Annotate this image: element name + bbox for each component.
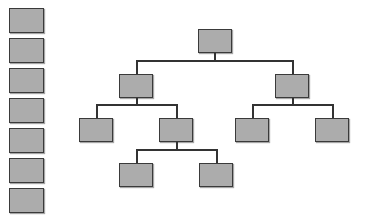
node-l3-a bbox=[119, 163, 153, 187]
node-l2-c bbox=[235, 118, 269, 142]
connector bbox=[252, 104, 254, 118]
connector bbox=[136, 149, 217, 151]
legend-box-1 bbox=[9, 8, 44, 33]
legend-box-4 bbox=[9, 98, 44, 123]
connector bbox=[136, 149, 138, 163]
legend-box-5 bbox=[9, 128, 44, 153]
node-l1-right bbox=[275, 74, 309, 98]
connector bbox=[136, 60, 293, 62]
connector bbox=[136, 60, 138, 74]
node-root bbox=[198, 29, 232, 53]
legend-box-3 bbox=[9, 68, 44, 93]
node-l2-a bbox=[79, 118, 113, 142]
connector bbox=[176, 104, 178, 118]
legend-box-2 bbox=[9, 38, 44, 63]
node-l2-b bbox=[159, 118, 193, 142]
legend-box-6 bbox=[9, 158, 44, 183]
connector bbox=[332, 104, 334, 118]
node-l3-b bbox=[199, 163, 233, 187]
connector bbox=[292, 60, 294, 74]
legend-box-7 bbox=[9, 188, 44, 213]
connector bbox=[96, 104, 177, 106]
connector bbox=[96, 104, 98, 118]
node-l1-left bbox=[119, 74, 153, 98]
connector bbox=[252, 104, 333, 106]
node-l2-d bbox=[315, 118, 349, 142]
connector bbox=[216, 149, 218, 163]
